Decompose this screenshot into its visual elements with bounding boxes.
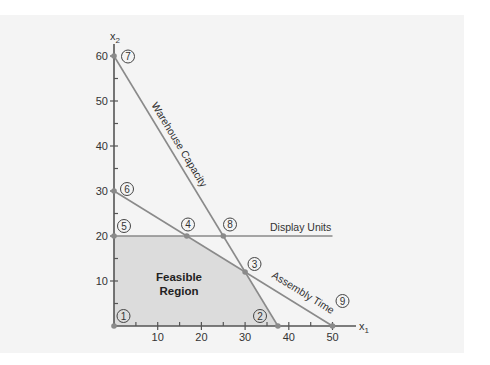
point-marker-4: 4	[182, 218, 195, 231]
x-tick-label: 30	[239, 331, 251, 343]
x-tick-label: 50	[326, 331, 338, 343]
point-marker-3: 3	[248, 258, 261, 271]
feasible-region-label: Feasible	[156, 271, 202, 283]
svg-text:1: 1	[121, 311, 127, 322]
assembly-time-label: Assembly Time	[270, 268, 337, 316]
lp-graph: 10 20 30 40 50 10 20 30 40 50 60 x2 x1 W…	[0, 0, 490, 365]
point-marker-6: 6	[121, 183, 134, 196]
point-marker-7: 7	[122, 50, 135, 63]
y-tick-label: 40	[96, 140, 108, 152]
svg-text:7: 7	[125, 51, 131, 62]
svg-text:5: 5	[121, 221, 127, 232]
point-marker-8: 8	[224, 218, 237, 231]
x-axis-title: x1	[359, 320, 370, 335]
svg-text:9: 9	[340, 296, 346, 307]
svg-text:4: 4	[185, 219, 191, 230]
x-tick-label: 10	[152, 331, 164, 343]
y-tick-label: 50	[96, 95, 108, 107]
y-tick-label: 30	[96, 185, 108, 197]
svg-text:6: 6	[124, 184, 130, 195]
warehouse-capacity-label: Warehouse Capacity	[149, 100, 210, 190]
feasible-region-label: Region	[160, 285, 199, 297]
y-tick-label: 20	[96, 230, 108, 242]
svg-text:2: 2	[257, 311, 263, 322]
display-units-label: Display Units	[270, 221, 331, 233]
y-axis-title: x2	[110, 30, 121, 45]
svg-text:8: 8	[227, 219, 233, 230]
y-tick-label: 10	[96, 275, 108, 287]
x-tick-label: 20	[195, 331, 207, 343]
y-tick-label: 60	[96, 50, 108, 62]
x-tick-label: 40	[283, 331, 295, 343]
point-marker-5: 5	[118, 220, 131, 233]
svg-text:3: 3	[252, 259, 258, 270]
point-marker-9: 9	[336, 295, 349, 308]
